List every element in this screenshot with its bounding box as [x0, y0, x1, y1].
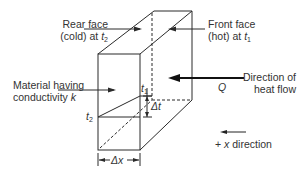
rear-face-sub: 2: [104, 36, 108, 43]
front-face-sub: 1: [247, 36, 251, 43]
t1-label: t1: [141, 82, 148, 94]
material-line2: conductivity: [13, 91, 71, 103]
x-direction-prefix: +: [215, 138, 224, 150]
direction-line2: heat flow: [230, 83, 296, 95]
material-label: Material having conductivity k: [13, 79, 84, 103]
rear-face-line2: (cold) at: [60, 30, 101, 42]
material-line1: Material having: [13, 79, 84, 91]
front-face-label: Front face (hot) at t1: [208, 18, 255, 42]
t1-sub: 1: [144, 88, 148, 95]
q-symbol: Q: [218, 81, 226, 93]
t2-label: t2: [86, 110, 93, 122]
x-direction-label: + x direction: [215, 138, 272, 150]
x-direction-suffix: direction: [229, 138, 272, 150]
t2-sub: 2: [89, 116, 93, 123]
front-face-line2: (hot) at: [208, 30, 244, 42]
front-face-outline: [98, 54, 140, 150]
delta-x-label: Δx: [111, 154, 123, 166]
direction-line1: Direction of: [230, 71, 296, 83]
rear-face-line1: Rear face: [50, 18, 108, 30]
delta-t-label: Δt: [151, 100, 161, 112]
front-face-line1: Front face: [208, 18, 255, 30]
material-var: k: [71, 91, 76, 103]
direction-label: Direction of heat flow: [230, 71, 296, 95]
rear-face-label: Rear face (cold) at t2: [50, 18, 108, 42]
